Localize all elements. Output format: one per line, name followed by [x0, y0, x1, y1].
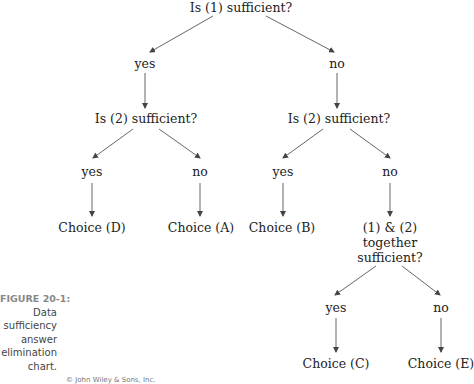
together-no-label: no — [433, 300, 449, 315]
arrow-root-no — [266, 16, 334, 52]
together-line-3: sufficient? — [357, 250, 423, 265]
root-yes-label: yes — [135, 56, 156, 71]
choice-a: Choice (A) — [168, 220, 234, 235]
arrow-root-yes — [150, 16, 213, 52]
choice-c: Choice (C) — [303, 356, 370, 371]
arrow-rightq2-no — [350, 129, 390, 158]
choice-b: Choice (B) — [249, 220, 315, 235]
together-yes-label: yes — [326, 300, 347, 315]
root-question: Is (1) sufficient? — [190, 0, 293, 15]
together-line-1: (1) & (2) — [357, 220, 423, 235]
choice-e: Choice (E) — [408, 356, 474, 371]
together-sufficient-question: (1) & (2) together sufficient? — [357, 220, 423, 265]
arrow-leftq2-no — [159, 129, 200, 158]
caption-line: elimination — [0, 346, 57, 360]
caption-line: chart. — [0, 360, 57, 374]
caption-line: Data — [0, 306, 57, 320]
caption-line: sufficiency — [0, 319, 57, 333]
figure-caption: FIGURE 20-1: Data sufficiency answer eli… — [0, 292, 57, 373]
arrow-together-no — [402, 266, 440, 295]
arrow-together-yes — [335, 266, 376, 295]
right-q2-no-label: no — [382, 164, 398, 179]
left-q2-no-label: no — [192, 164, 208, 179]
left-q2-yes-label: yes — [82, 164, 103, 179]
figure-label: FIGURE 20-1: — [0, 292, 57, 306]
right-q2-yes-label: yes — [273, 164, 294, 179]
arrow-leftq2-yes — [93, 129, 133, 158]
right-q2-question: Is (2) sufficient? — [288, 111, 391, 126]
root-no-label: no — [329, 56, 345, 71]
choice-d: Choice (D) — [58, 220, 125, 235]
copyright-credit: © John Wiley & Sons, Inc. — [66, 376, 156, 384]
left-q2-question: Is (2) sufficient? — [95, 111, 198, 126]
arrow-rightq2-yes — [283, 129, 323, 158]
together-line-2: together — [357, 235, 423, 250]
caption-line: answer — [0, 333, 57, 347]
